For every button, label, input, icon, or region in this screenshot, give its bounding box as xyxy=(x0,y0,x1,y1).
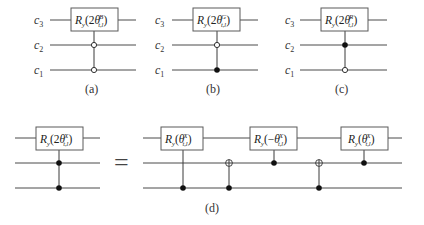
open-control-c1 xyxy=(342,67,347,72)
ry-gate-label-1: Ry(θXt,l) xyxy=(164,132,192,147)
wire-label-c3: c3 xyxy=(155,13,164,29)
cnot-control-2 xyxy=(316,185,322,191)
filled-control-c2 xyxy=(342,42,348,48)
cnot-control-1 xyxy=(226,185,232,191)
caption-d: (d) xyxy=(205,201,219,215)
panel-a: c3 c2 c1 Ry(2θBt,l) (a) xyxy=(34,8,136,96)
open-control-c2 xyxy=(91,42,96,47)
wire-label-c3: c3 xyxy=(285,13,294,29)
lhs-circuit: Ry(2θXt,l) xyxy=(15,127,100,191)
ry-gate-label-2: Ry(−θXt,l) xyxy=(253,132,287,147)
wire-label-c1: c1 xyxy=(34,63,43,79)
quantum-circuit-figure: c3 c2 c1 Ry(2θBt,l) (a) c3 c2 c1 Ry(2θGt… xyxy=(0,0,424,225)
panel-c: c3 c2 c1 Ry(2θRt,l) (c) xyxy=(285,8,387,96)
equals-sign: = xyxy=(114,148,129,177)
filled-control-bottom xyxy=(56,185,62,191)
wire-label-c2: c2 xyxy=(285,38,294,54)
filled-control-c1 xyxy=(214,67,220,73)
wire-label-c1: c1 xyxy=(155,63,164,79)
ry-gate-label: Ry(2θBt,l) xyxy=(74,13,107,28)
wire-label-c2: c2 xyxy=(155,38,164,54)
wire-label-c1: c1 xyxy=(285,63,294,79)
filled-control-3 xyxy=(361,160,367,166)
filled-control-1 xyxy=(180,185,186,191)
wire-label-c2: c2 xyxy=(34,38,43,54)
ry-gate-label: Ry(2θGt,l) xyxy=(196,13,230,28)
open-control-c2 xyxy=(214,42,219,47)
wire-label-c3: c3 xyxy=(34,13,43,29)
caption-b: (b) xyxy=(206,82,220,96)
filled-control-middle xyxy=(56,160,62,166)
panel-b: c3 c2 c1 Ry(2θGt,l) (b) xyxy=(155,8,258,96)
ry-gate-label: Ry(2θRt,l) xyxy=(324,13,357,28)
caption-c: (c) xyxy=(335,82,348,96)
ry-gate-label-3: Ry(θXt,l) xyxy=(347,132,375,147)
filled-control-2 xyxy=(271,160,277,166)
open-control-c1 xyxy=(91,67,96,72)
panel-d: Ry(2θXt,l) = Ry(θXt,l) Ry(−θXt,l) xyxy=(15,127,402,215)
ry-gate-label: Ry(2θXt,l) xyxy=(39,132,72,147)
caption-a: (a) xyxy=(85,82,98,96)
rhs-circuit: Ry(θXt,l) Ry(−θXt,l) Ry(θXt,l) xyxy=(143,127,402,191)
